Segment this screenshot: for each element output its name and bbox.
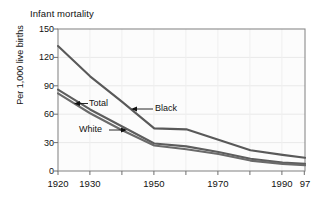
- x-tick-1930: 1930: [79, 178, 100, 189]
- y-axis-ticks: [54, 29, 58, 171]
- x-axis-ticks: [58, 171, 304, 175]
- x-tick-1970: 1970: [207, 178, 228, 189]
- x-tick-1990: 1990: [271, 178, 292, 189]
- annotation-white: White: [79, 124, 102, 134]
- x-tick-1997: 97: [300, 178, 311, 189]
- x-tick-1920: 1920: [47, 178, 68, 189]
- annotation-black: Black: [155, 103, 177, 113]
- infant-mortality-chart: Infant mortality Per 1,000 live births 1…: [0, 0, 323, 206]
- x-tick-1950: 1950: [143, 178, 164, 189]
- annotation-total: Total: [89, 98, 108, 108]
